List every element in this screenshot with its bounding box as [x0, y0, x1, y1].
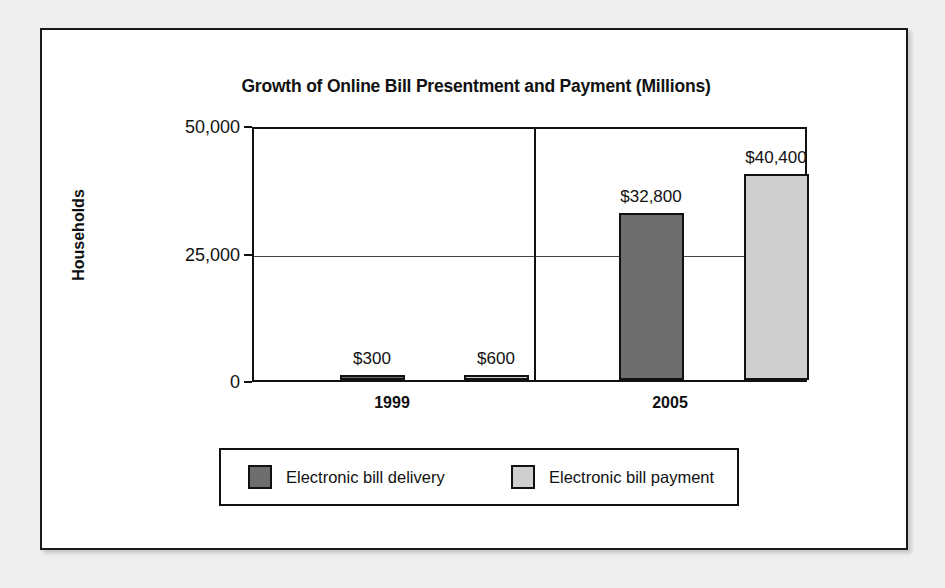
bar-2005-delivery [619, 213, 684, 380]
bar-2005-payment [744, 174, 809, 380]
bar-value-label-32800: $32,800 [581, 187, 721, 207]
bar-1999-delivery [340, 375, 405, 380]
group-divider [534, 129, 536, 380]
chart-figure: Growth of Online Bill Presentment and Pa… [40, 28, 908, 550]
y-tick-mark-0 [244, 381, 252, 383]
plot-area: $300$600$32,800$40,400 [252, 127, 807, 382]
bar-value-label-600: $600 [426, 349, 566, 369]
y-tick-label-25000: 25,000 [130, 246, 240, 264]
legend-item-electronic-bill-delivery[interactable]: Electronic bill delivery [248, 465, 445, 489]
legend-swatch-icon-delivery [248, 465, 272, 489]
legend-item-electronic-bill-payment[interactable]: Electronic bill payment [511, 465, 714, 489]
y-axis-title: Households [70, 155, 88, 315]
bar-value-label-40400: $40,400 [706, 148, 846, 168]
y-tick-label-50000: 50,000 [130, 118, 240, 136]
chart-legend: Electronic bill delivery Electronic bill… [219, 448, 739, 506]
y-tick-mark-25000 [244, 254, 252, 256]
x-axis-label-1999: 1999 [322, 394, 462, 412]
bar-value-label-300: $300 [302, 349, 442, 369]
y-tick-mark-50000 [244, 126, 252, 128]
legend-label-payment: Electronic bill payment [549, 468, 714, 487]
x-axis-labels: 1999 2005 [252, 394, 807, 418]
x-axis-label-2005: 2005 [600, 394, 740, 412]
bar-1999-payment [464, 375, 529, 380]
legend-swatch-icon-payment [511, 465, 535, 489]
y-tick-label-0: 0 [130, 373, 240, 391]
legend-label-delivery: Electronic bill delivery [286, 468, 445, 487]
gridline-25000 [254, 256, 805, 257]
